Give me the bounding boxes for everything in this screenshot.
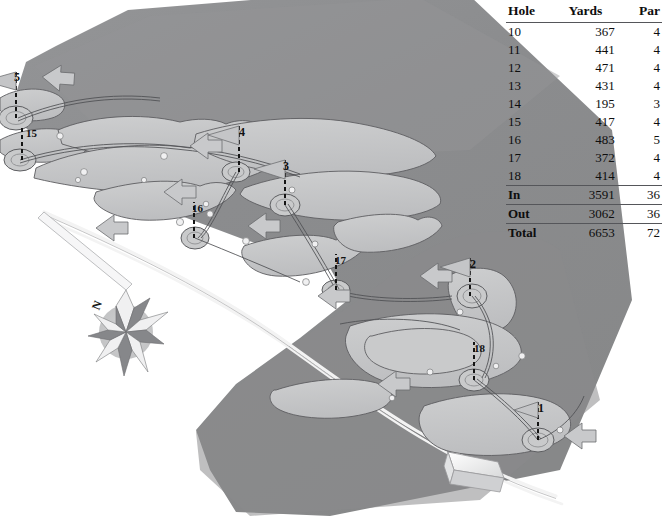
scorecard-row: 134314 xyxy=(506,77,662,95)
cell-yards: 471 xyxy=(554,59,617,77)
header-yards: Yards xyxy=(554,2,617,23)
cell-par: 4 xyxy=(617,149,662,167)
header-hole: Hole xyxy=(506,2,554,23)
hole-marker-2: 2 xyxy=(470,259,476,270)
cell-hole: In xyxy=(506,186,554,205)
cell-yards: 431 xyxy=(554,77,617,95)
hole-marker-4: 4 xyxy=(239,127,245,138)
cell-hole: 15 xyxy=(506,113,554,131)
cell-hole: 12 xyxy=(506,59,554,77)
cell-yards: 417 xyxy=(554,113,617,131)
scorecard-summary-row: Out306236 xyxy=(506,205,662,224)
cell-par: 3 xyxy=(617,95,662,113)
scorecard-table: Hole Yards Par 1036741144141247141343141… xyxy=(506,2,662,242)
cell-par: 5 xyxy=(617,131,662,149)
cell-par: 4 xyxy=(617,77,662,95)
cell-par: 4 xyxy=(617,23,662,42)
hole-marker-17: 17 xyxy=(335,255,346,266)
hole-marker-3: 3 xyxy=(283,161,289,172)
cell-yards: 6653 xyxy=(554,224,617,243)
cell-hole: Total xyxy=(506,224,554,243)
cell-hole: 17 xyxy=(506,149,554,167)
cell-hole: 18 xyxy=(506,167,554,186)
cell-hole: 11 xyxy=(506,41,554,59)
cell-hole: 10 xyxy=(506,23,554,42)
hole-marker-18: 18 xyxy=(474,343,485,354)
cell-yards: 483 xyxy=(554,131,617,149)
scorecard-header-row: Hole Yards Par xyxy=(506,2,662,23)
cell-yards: 3591 xyxy=(554,186,617,205)
hole-marker-16: 16 xyxy=(192,203,203,214)
scorecard-row: 141953 xyxy=(506,95,662,113)
cell-par: 4 xyxy=(617,113,662,131)
cell-par: 72 xyxy=(617,224,662,243)
cell-yards: 195 xyxy=(554,95,617,113)
cell-yards: 372 xyxy=(554,149,617,167)
header-par: Par xyxy=(617,2,662,23)
scorecard-row: 173724 xyxy=(506,149,662,167)
cell-yards: 367 xyxy=(554,23,617,42)
scorecard-row: 164835 xyxy=(506,131,662,149)
cell-hole: 16 xyxy=(506,131,554,149)
cell-hole: 14 xyxy=(506,95,554,113)
scorecard-row: 154174 xyxy=(506,113,662,131)
scorecard-summary-row: Total665372 xyxy=(506,224,662,243)
cell-par: 4 xyxy=(617,59,662,77)
cell-par: 36 xyxy=(617,205,662,224)
hole-marker-15: 15 xyxy=(26,128,37,139)
hole-marker-5: 5 xyxy=(14,72,20,83)
scorecard-row: 124714 xyxy=(506,59,662,77)
cell-hole: Out xyxy=(506,205,554,224)
cell-par: 36 xyxy=(617,186,662,205)
scorecard: Hole Yards Par 1036741144141247141343141… xyxy=(506,2,662,242)
scorecard-row: 103674 xyxy=(506,23,662,42)
scorecard-row: 114414 xyxy=(506,41,662,59)
scorecard-summary-row: In359136 xyxy=(506,186,662,205)
hole-marker-1: 1 xyxy=(538,403,544,414)
cell-par: 4 xyxy=(617,41,662,59)
cell-yards: 441 xyxy=(554,41,617,59)
cell-yards: 414 xyxy=(554,167,617,186)
scorecard-row: 184144 xyxy=(506,167,662,186)
cell-yards: 3062 xyxy=(554,205,617,224)
cell-par: 4 xyxy=(617,167,662,186)
cell-hole: 13 xyxy=(506,77,554,95)
